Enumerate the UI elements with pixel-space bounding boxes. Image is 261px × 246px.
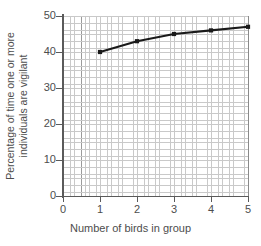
y-tick-40 [56, 52, 63, 53]
y-tick-label-30: 30 [16, 82, 56, 93]
x-axis-line [61, 196, 249, 198]
y-axis-line [62, 14, 64, 198]
x-tick-5 [248, 196, 249, 202]
x-tick-label-0: 0 [51, 204, 75, 215]
x-tick-label-3: 3 [162, 204, 186, 215]
y-tick-30 [56, 88, 63, 89]
x-tick-label-4: 4 [199, 204, 223, 215]
x-tick-label-2: 2 [125, 204, 149, 215]
y-tick-label-20: 20 [16, 118, 56, 129]
y-tick-label-10: 10 [16, 154, 56, 165]
x-tick-label-5: 5 [236, 204, 260, 215]
plot-right-border [248, 16, 249, 196]
y-tick-50 [56, 16, 63, 17]
y-axis-title: Percentage of time one or more individua… [0, 0, 34, 212]
y-tick-10 [56, 160, 63, 161]
y-tick-label-50: 50 [16, 10, 56, 21]
y-tick-label-40: 40 [16, 46, 56, 57]
y-tick-20 [56, 124, 63, 125]
x-axis-title: Number of birds in group [0, 222, 261, 234]
x-tick-3 [174, 196, 175, 202]
x-tick-4 [211, 196, 212, 202]
x-tick-1 [100, 196, 101, 202]
x-tick-0 [63, 196, 64, 202]
plot-area-grid [63, 16, 248, 196]
y-tick-label-0: 0 [16, 190, 56, 201]
vigilance-line-chart: Percentage of time one or more individua… [0, 0, 261, 246]
x-tick-2 [137, 196, 138, 202]
x-tick-label-1: 1 [88, 204, 112, 215]
